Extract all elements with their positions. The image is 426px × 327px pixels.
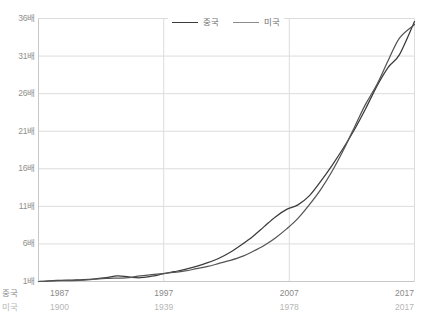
y-axis-tick-labels: 1배6배11배16배21배26배31배36배 — [0, 0, 35, 327]
legend-item-china[interactable]: 중국 — [172, 18, 219, 27]
horizontal-gridlines — [39, 19, 415, 282]
y-tick-label: 1배 — [3, 277, 35, 286]
series-line-china — [39, 22, 415, 282]
plot-area — [0, 0, 426, 327]
x-axis-china: 중국 1987199720072017 — [0, 289, 426, 301]
x-tick-label: 1900 — [50, 303, 69, 312]
y-tick-label: 26배 — [3, 89, 35, 98]
series-line-usa — [39, 25, 415, 282]
legend-label-usa: 미국 — [264, 18, 280, 27]
y-tick-label: 21배 — [3, 127, 35, 136]
x-axis-prefix-usa: 미국 — [2, 303, 18, 312]
legend-swatch-china — [172, 22, 198, 23]
x-tick-label: 1987 — [50, 289, 69, 298]
series-lines — [39, 22, 415, 282]
x-tick-label: 2017 — [395, 303, 414, 312]
line-chart: 1배6배11배16배21배26배31배36배 중국 미국 중국 19871997… — [0, 0, 426, 327]
axis-frame — [39, 19, 415, 282]
legend-label-china: 중국 — [203, 18, 219, 27]
x-axis-prefix-china: 중국 — [2, 289, 18, 298]
x-tick-label: 1978 — [280, 303, 299, 312]
x-tick-label: 2007 — [280, 289, 299, 298]
legend-swatch-usa — [233, 22, 259, 23]
y-tick-label: 6배 — [3, 239, 35, 248]
legend-item-usa[interactable]: 미국 — [233, 18, 280, 27]
y-tick-label: 11배 — [3, 202, 35, 211]
legend: 중국 미국 — [168, 16, 284, 29]
x-axis-usa: 미국 1900193919782017 — [0, 303, 426, 315]
x-tick-label: 1939 — [154, 303, 173, 312]
y-tick-label: 36배 — [3, 14, 35, 23]
y-tick-label: 31배 — [3, 52, 35, 61]
y-tick-label: 16배 — [3, 164, 35, 173]
x-tick-label: 2017 — [395, 289, 414, 298]
x-tick-label: 1997 — [154, 289, 173, 298]
